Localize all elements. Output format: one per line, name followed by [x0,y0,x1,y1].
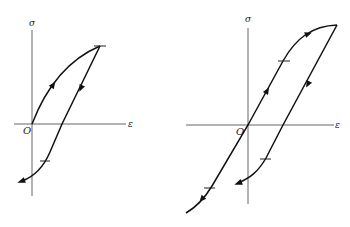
left-unloading-curve [22,46,100,181]
right-origin-label: O [236,126,244,137]
hysteresis-diagrams: σ ε O σ ε O [0,0,350,227]
left-epsilon-label: ε [128,119,133,129]
right-arrow-up-icon [263,86,272,95]
right-sigma-label: σ [245,14,252,24]
left-sigma-label: σ [29,18,36,28]
right-arrow-end-icon [233,179,243,188]
left-diagram: σ ε O [14,18,133,196]
right-loading-curve [186,25,337,213]
left-loading-curve [32,46,100,124]
left-origin-label: O [23,125,31,136]
right-epsilon-label: ε [335,120,340,130]
left-arrow-end-icon [16,177,26,185]
right-unloading-curve [238,25,337,183]
right-diagram: σ ε O [186,14,340,213]
